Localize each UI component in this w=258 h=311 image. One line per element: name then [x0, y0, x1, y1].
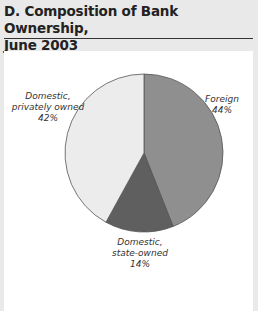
- label-state-name1: Domestic,: [100, 237, 180, 248]
- label-foreign: Foreign 44%: [194, 94, 250, 116]
- label-domestic-state: Domestic, state-owned 14%: [100, 237, 180, 270]
- label-foreign-name: Foreign: [194, 94, 250, 105]
- label-private-name2: privately owned: [8, 102, 88, 113]
- label-domestic-private: Domestic, privately owned 42%: [8, 91, 88, 124]
- label-private-name1: Domestic,: [8, 91, 88, 102]
- label-state-value: 14%: [100, 259, 180, 270]
- label-state-name2: state-owned: [100, 248, 180, 259]
- label-foreign-value: 44%: [194, 105, 250, 116]
- label-private-value: 42%: [8, 113, 88, 124]
